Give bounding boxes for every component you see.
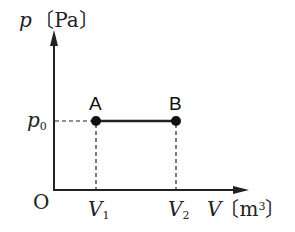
p0-subscript: 0 (40, 120, 47, 133)
v2-subscript: 2 (182, 209, 189, 222)
x-axis-arrow-icon (233, 186, 249, 194)
v1-label: V1 (88, 199, 109, 221)
v2-label: V2 (168, 199, 189, 221)
p0-label: p0 (27, 110, 47, 132)
x-axis-unit-close: 〕 (265, 197, 285, 221)
pv-diagram: p 〔Pa〕 p0 A B O V1 V2 V〔m3〕 (0, 0, 295, 232)
point-b-marker (171, 116, 181, 126)
origin-label: O (33, 192, 49, 212)
point-a-marker (91, 116, 101, 126)
y-axis-unit: 〔Pa〕 (34, 8, 98, 32)
y-axis-arrow-icon (50, 30, 58, 46)
point-a-label: A (89, 94, 102, 113)
point-b-label: B (169, 94, 182, 113)
x-axis-label: V〔m3〕 (207, 199, 285, 219)
v1-subscript: 1 (102, 209, 109, 222)
x-axis-unit: 〔m (219, 197, 258, 221)
p0-symbol: p (27, 108, 40, 132)
v1-symbol: V (88, 197, 102, 221)
v2-symbol: V (168, 197, 182, 221)
y-axis-label: p 〔Pa〕 (19, 10, 99, 30)
y-axis-symbol: p (19, 8, 32, 32)
